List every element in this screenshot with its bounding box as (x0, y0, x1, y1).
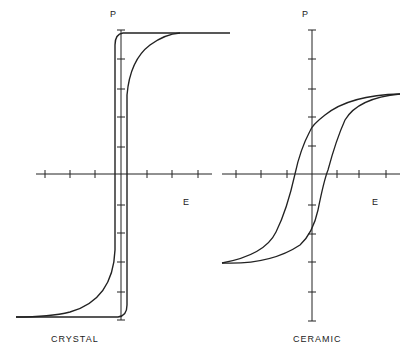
crystal-e-axis-label: E (183, 197, 190, 207)
crystal-title: CRYSTAL (51, 334, 99, 344)
ceramic-axes (222, 30, 400, 321)
ceramic-loop (222, 94, 400, 263)
crystal-axes (36, 30, 212, 320)
hysteresis-figure (0, 0, 412, 359)
ceramic-title: CERAMIC (293, 334, 342, 344)
ceramic-p-axis-label: P (302, 9, 309, 19)
crystal-p-axis-label: P (110, 9, 117, 19)
ceramic-e-axis-label: E (372, 197, 379, 207)
